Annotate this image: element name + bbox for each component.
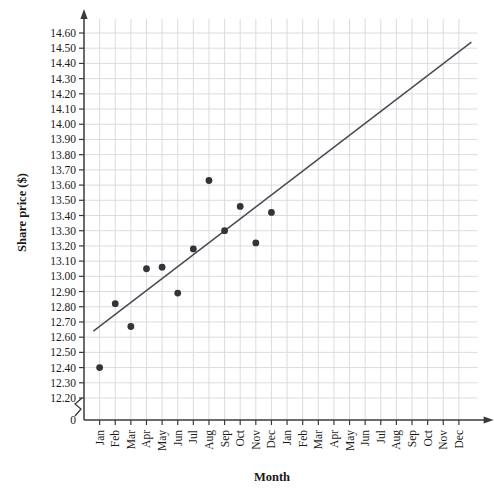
y-axis bbox=[75, 9, 88, 420]
x-tick-label: Jan bbox=[281, 430, 293, 446]
y-axis-tick-labels: 14.6014.5014.4014.3014.2014.1014.0013.90… bbox=[50, 27, 76, 404]
data-point bbox=[96, 364, 103, 371]
x-tick-label: Nov bbox=[250, 430, 262, 450]
y-tick-label: 13.00 bbox=[50, 270, 76, 282]
y-tick-label: 12.30 bbox=[50, 377, 76, 389]
share-price-scatter-chart: 14.6014.5014.4014.3014.2014.1014.0013.90… bbox=[0, 0, 494, 488]
y-tick-label: 13.60 bbox=[50, 179, 76, 191]
y-tick-label: 12.20 bbox=[50, 392, 76, 404]
x-tick-label: Aug bbox=[203, 430, 216, 450]
x-tick-label: Mar bbox=[312, 430, 324, 449]
y-axis-title: Share price ($) bbox=[15, 173, 29, 252]
y-tick-label: 14.00 bbox=[50, 118, 76, 130]
data-point bbox=[221, 227, 228, 234]
x-tick-label: May bbox=[156, 430, 169, 451]
y-tick-label: 12.90 bbox=[50, 286, 76, 298]
vertical-gridlines bbox=[100, 19, 459, 420]
x-tick-label: Feb bbox=[297, 430, 309, 448]
data-point bbox=[112, 300, 119, 307]
y-tick-label: 13.40 bbox=[50, 210, 76, 222]
data-point bbox=[143, 265, 150, 272]
data-point bbox=[237, 203, 244, 210]
x-tick-label: Jan bbox=[94, 430, 106, 446]
x-axis bbox=[84, 416, 494, 425]
data-point bbox=[252, 239, 259, 246]
y-tick-label: 14.60 bbox=[50, 27, 76, 39]
data-point bbox=[159, 264, 166, 271]
y-tick-label: 12.80 bbox=[50, 301, 76, 313]
x-tick-label: Jun bbox=[359, 430, 371, 446]
data-points bbox=[96, 177, 275, 371]
y-tick-label: 13.80 bbox=[50, 149, 76, 161]
x-tick-label: Dec bbox=[265, 430, 277, 449]
x-tick-label: Aug bbox=[390, 430, 403, 450]
data-point bbox=[268, 209, 275, 216]
y-tick-label: 13.30 bbox=[50, 225, 76, 237]
x-tick-label: May bbox=[344, 430, 357, 451]
y-tick-label: 13.70 bbox=[50, 164, 76, 176]
y-tick-label: 12.70 bbox=[50, 316, 76, 328]
y-tick-label: 14.20 bbox=[50, 88, 76, 100]
trend-line bbox=[93, 42, 471, 331]
horizontal-gridlines bbox=[84, 33, 478, 398]
x-tick-label: Oct bbox=[234, 429, 246, 446]
chart-canvas: 14.6014.5014.4014.3014.2014.1014.0013.90… bbox=[0, 0, 494, 488]
y-tick-label: 14.30 bbox=[50, 73, 76, 85]
x-tick-label: Jul bbox=[375, 430, 387, 443]
zero-tick-label: 0 bbox=[70, 414, 76, 426]
y-tick-label: 12.60 bbox=[50, 331, 76, 343]
data-point bbox=[127, 323, 134, 330]
x-axis-title: Month bbox=[254, 470, 290, 484]
y-tick-label: 13.10 bbox=[50, 255, 76, 267]
x-tick-label: Sep bbox=[219, 430, 232, 448]
x-tick-label: Nov bbox=[437, 430, 449, 450]
x-tick-label: Feb bbox=[109, 430, 121, 448]
x-tick-label: Sep bbox=[406, 430, 419, 448]
x-tick-label: Jul bbox=[187, 430, 199, 443]
y-tick-label: 14.50 bbox=[50, 42, 76, 54]
y-tick-label: 12.50 bbox=[50, 346, 76, 358]
x-tick-label: Apr bbox=[328, 430, 341, 448]
x-tick-label: Dec bbox=[453, 430, 465, 449]
x-tick-label: Jun bbox=[172, 430, 184, 446]
data-point bbox=[174, 290, 181, 297]
y-tick-label: 14.10 bbox=[50, 103, 76, 115]
y-tick-label: 14.40 bbox=[50, 57, 76, 69]
y-tick-label: 12.40 bbox=[50, 362, 76, 374]
y-tick-label: 13.90 bbox=[50, 133, 76, 145]
y-tick-label: 13.20 bbox=[50, 240, 76, 252]
x-tick-label: Apr bbox=[140, 430, 153, 448]
x-axis-tick-labels: JanFebMarAprMayJunJulAugSepOctNovDecJanF… bbox=[94, 429, 465, 451]
x-tick-label: Mar bbox=[125, 430, 137, 449]
y-tick-label: 13.50 bbox=[50, 194, 76, 206]
data-point bbox=[190, 246, 197, 253]
x-tick-label: Oct bbox=[422, 429, 434, 446]
data-point bbox=[206, 177, 213, 184]
